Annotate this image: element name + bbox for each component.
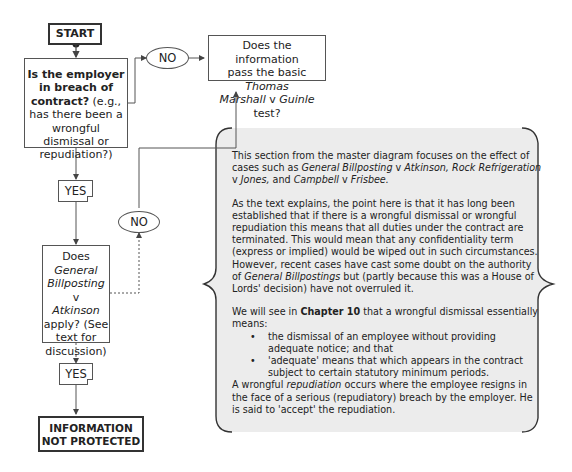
marshall-case-marshall: Marshall <box>219 93 265 106</box>
marshall-v: v <box>266 93 280 106</box>
note-paragraph-4: A wrongful repudiation occurs where the … <box>232 379 542 416</box>
start-label: START <box>56 27 95 40</box>
note-paragraph-2: As the text explains, the point here is … <box>232 198 542 296</box>
q2-line-1: Does <box>43 250 109 264</box>
q2-case-atkinson: Atkinson <box>52 304 100 317</box>
marshall-line-2a: pass the basic <box>228 66 307 79</box>
information-not-protected-node: INFORMATION NOT PROTECTED <box>38 416 144 452</box>
note-text: and <box>269 174 293 185</box>
yes-decision-2: YES <box>59 363 93 385</box>
marshall-case-thomas: Thomas <box>245 80 289 93</box>
note-text: We will see in <box>232 306 300 317</box>
no-label-2: NO <box>130 215 148 229</box>
emphasis-repudiation: repudiation <box>286 379 341 390</box>
thomas-marshall-test-question: Does the information pass the basic Thom… <box>208 35 326 81</box>
note-paragraph-1: This section from the master diagram foc… <box>232 150 542 187</box>
note-paragraph-3: We will see in Chapter 10 that a wrongfu… <box>232 306 542 330</box>
marshall-line-3d: test? <box>254 107 281 120</box>
yes-label-1: YES <box>65 184 87 198</box>
bullet-item: 'adequate' means that which appears in t… <box>258 355 542 379</box>
note-text: As the text explains, the point here is … <box>232 198 538 282</box>
marshall-line-1: Does the information <box>209 39 325 66</box>
q2-v: v <box>73 291 80 304</box>
note-text: v <box>339 174 351 185</box>
general-billposting-question: Does General Billposting v Atkinson appl… <box>42 245 110 343</box>
yes-label-2: YES <box>65 367 87 381</box>
q2-line-7: discussion) <box>43 345 109 359</box>
breach-of-contract-question: Is the employer in breach of contract? (… <box>24 58 128 148</box>
end-label: INFORMATION NOT PROTECTED <box>42 422 140 447</box>
q2-case-billposting: Billposting <box>47 277 104 290</box>
note-bullet-list: the dismissal of an employee without pro… <box>232 331 542 380</box>
q2-case-general: General <box>54 264 97 277</box>
explanatory-note: This section from the master diagram foc… <box>232 150 542 427</box>
case-name: General Billpostings <box>244 271 340 282</box>
q2-line-5: apply? (See <box>43 318 109 332</box>
case-name: General Billposting <box>302 162 393 173</box>
case-name: Campbell <box>294 174 339 185</box>
case-name: Atkinson, Rock Refrigeration <box>404 162 541 173</box>
marshall-case-guinle: Guinle <box>279 93 314 106</box>
bullet-item: the dismissal of an employee without pro… <box>258 331 542 355</box>
no-decision-1: NO <box>146 47 189 69</box>
chapter-reference: Chapter 10 <box>300 306 360 317</box>
case-name: Frisbee. <box>351 174 389 185</box>
no-label-1: NO <box>159 51 177 65</box>
note-text: v <box>393 162 405 173</box>
start-node: START <box>48 23 102 45</box>
no-decision-2: NO <box>118 211 160 233</box>
yes-decision-1: YES <box>58 180 93 202</box>
case-name: Jones, <box>241 174 270 185</box>
q2-line-6: text for <box>43 331 109 345</box>
note-text: A wrongful <box>232 379 286 390</box>
note-text: v <box>232 174 241 185</box>
